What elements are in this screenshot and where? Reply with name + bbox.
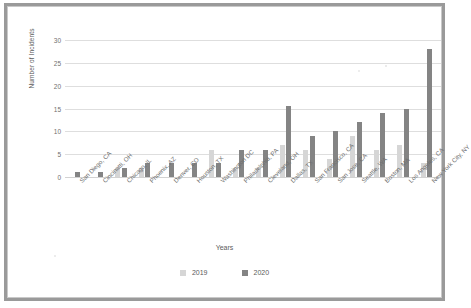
bar-chart: Number of Incidents 051015202530 San Die… xyxy=(8,7,441,297)
legend-swatch-2020-icon xyxy=(242,270,248,276)
figure-frame: Number of Incidents 051015202530 San Die… xyxy=(4,3,445,301)
y-axis-tick-label: 10 xyxy=(54,128,61,135)
bar-2020[interactable] xyxy=(122,168,127,177)
scan-speckle xyxy=(385,65,387,67)
y-axis-tick-label: 25 xyxy=(54,59,61,66)
y-axis-tick-label: 15 xyxy=(54,105,61,112)
y-axis-tick-label: 20 xyxy=(54,82,61,89)
x-axis-tick-labels: San Diego, CACincinatti, OHChicago, ILPh… xyxy=(65,179,441,237)
bar-group xyxy=(65,40,89,177)
legend-swatch-2019-icon xyxy=(180,270,186,276)
scan-speckle xyxy=(358,70,360,72)
legend-label-2019: 2019 xyxy=(192,269,208,276)
y-axis-tick-label: 0 xyxy=(57,174,61,181)
bar-group xyxy=(300,40,324,177)
chart-legend: 2019 2020 xyxy=(8,269,441,276)
scan-speckle xyxy=(54,255,56,257)
legend-item-2019[interactable]: 2019 xyxy=(180,269,208,276)
x-axis-title: Years xyxy=(8,244,441,251)
figure-inner-border: Number of Incidents 051015202530 San Die… xyxy=(7,6,442,298)
y-axis-tick-label: 30 xyxy=(54,37,61,44)
bar-2020[interactable] xyxy=(310,136,315,177)
legend-item-2020[interactable]: 2020 xyxy=(242,269,270,276)
y-axis-title: Number of Incidents xyxy=(28,9,35,109)
y-axis-tick-label: 5 xyxy=(57,151,61,158)
legend-label-2020: 2020 xyxy=(254,269,270,276)
bar-2020[interactable] xyxy=(357,122,362,177)
